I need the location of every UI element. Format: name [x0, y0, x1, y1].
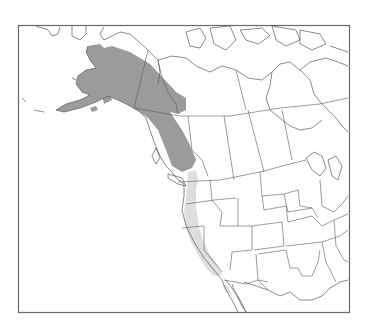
range-map — [0, 0, 367, 334]
